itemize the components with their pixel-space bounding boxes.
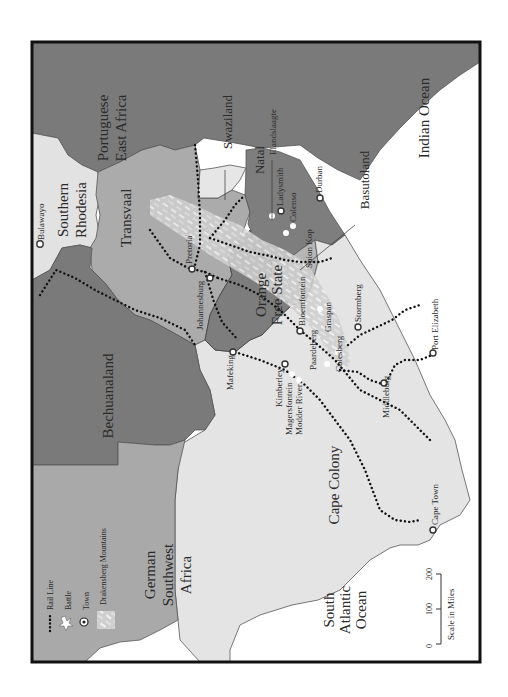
label-middleburg: Middleburg	[381, 375, 391, 418]
scale-label-100: 100	[425, 603, 434, 615]
label-bulawayo: Bulawayo	[36, 203, 46, 240]
label-natal: Natal	[252, 146, 267, 175]
label-paardeberg: Paardeberg	[308, 329, 318, 370]
town-icon-cape-town	[430, 527, 436, 533]
battle-icon-spion-kop	[283, 230, 289, 236]
label-johannesburg: Johannesburg	[195, 280, 205, 330]
label-graspan: Graspan	[323, 302, 333, 332]
label-ladysmith: Ladysmith	[275, 167, 285, 206]
label-kimberley: Kimberley	[274, 368, 284, 407]
legend-drakensberg-icon	[97, 611, 115, 629]
label-cape-colony: Cape Colony	[326, 445, 342, 524]
legend-town-icon-dot	[82, 620, 85, 623]
label-colenso: Colenso	[288, 192, 298, 222]
label-indian-ocean: Indian Ocean	[416, 77, 432, 158]
label-southern-rhodesia-line1: Southern	[55, 182, 71, 237]
label-german-line1: German	[142, 550, 158, 599]
label-bechuanaland: Bechuanaland	[100, 353, 116, 438]
town-icon-mafeking	[230, 349, 236, 355]
map-of-southern-africa: Portuguese East Africa Swaziland Souther…	[0, 0, 508, 697]
battle-icon-magersfontein	[289, 371, 295, 377]
town-icon-kimberley	[282, 361, 288, 367]
label-colesberg: Colesberg	[334, 335, 344, 372]
label-transvaal: Transvaal	[118, 189, 134, 248]
legend-battle-label: Battle	[64, 590, 73, 610]
label-mafeking: Mafeking	[225, 355, 235, 390]
legend-town-label: Town	[82, 592, 91, 610]
label-southern-rhodesia-line2: Rhodesia	[73, 182, 89, 238]
label-cape-town: Cape Town	[430, 484, 440, 525]
town-icon-bloemfontein	[297, 328, 303, 334]
label-orange-line1: Orange	[253, 273, 269, 317]
town-icon-durban	[317, 195, 323, 201]
label-elandslaagte: Elandslaagte	[268, 109, 278, 155]
label-durban: Durban	[314, 166, 324, 193]
battle-icon-paardeberg	[324, 361, 330, 367]
label-portuguese-line2: East Africa	[113, 94, 129, 161]
label-pretoria: Pretoria	[184, 236, 194, 265]
battle-icon-modder-river	[296, 377, 302, 383]
town-icon-pretoria	[189, 266, 195, 272]
battle-icon-colenso	[290, 223, 296, 229]
town-icon-johannesburg	[207, 275, 213, 281]
label-port-elizabeth: Port Elizabeth	[430, 298, 440, 350]
label-swaziland: Swaziland	[220, 94, 235, 149]
scale-label-0: 0	[425, 644, 434, 648]
legend-rail-label: Rail Line	[46, 580, 55, 610]
label-basutoland: Basutoland	[357, 150, 372, 209]
label-orange-line2: Free State	[269, 264, 285, 325]
label-stormberg: Stormberg	[353, 284, 363, 322]
town-icon-bulawayo	[37, 241, 43, 247]
label-modder-river: Modder River	[294, 384, 304, 435]
label-atlantic-line1: South	[321, 592, 337, 628]
label-atlantic-line2: Atlantic	[337, 586, 353, 635]
label-spion-kop: Spion Kop	[304, 229, 314, 268]
label-magersfontein: Magersfontein	[284, 382, 294, 435]
label-german-line2: Southwest	[160, 543, 176, 606]
label-portuguese-line1: Portuguese	[95, 94, 111, 161]
legend-drakensberg-label: Drakensberg Mountains	[99, 528, 108, 605]
label-german-line3: Africa	[178, 556, 194, 595]
label-bloemfontein: Bloemfontein	[297, 276, 307, 326]
town-icon-stormberg	[355, 324, 361, 330]
town-icon-ladysmith	[278, 208, 284, 214]
scale-title: Scale in Miles	[446, 588, 456, 640]
scale-label-200: 200	[425, 568, 434, 580]
label-atlantic-line3: Ocean	[353, 590, 369, 629]
